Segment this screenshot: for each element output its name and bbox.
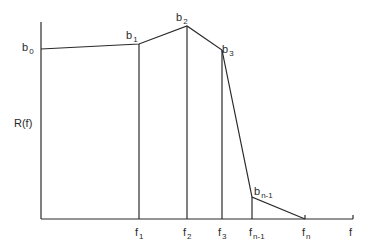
piecewise-function-diagram <box>0 0 370 251</box>
tick-label-f3: f3 <box>218 227 227 241</box>
label-b0: b0 <box>22 42 34 56</box>
label-b3: b3 <box>222 44 234 58</box>
tick-label-fn-1: fn-1 <box>249 227 265 241</box>
label-bn-1: bn-1 <box>254 186 273 200</box>
label-b2: b2 <box>176 12 188 26</box>
tick-label-fn: fn <box>302 227 311 241</box>
y-axis-label: R(f) <box>14 118 32 129</box>
x-axis-label: f <box>349 227 352 238</box>
label-b1: b1 <box>126 30 138 44</box>
tick-label-f1: f1 <box>135 227 144 241</box>
tick-label-f2: f2 <box>183 227 192 241</box>
